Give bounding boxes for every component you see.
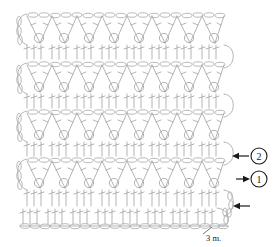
marker-label-1: 1 [257, 174, 262, 185]
double-crochet-group [24, 190, 219, 206]
double-crochet-group [24, 94, 219, 108]
double-crochet-group [24, 45, 219, 59]
long-stitch-group [27, 65, 224, 92]
marker-label-2: 2 [257, 151, 262, 162]
row-marker-1[interactable]: 1 [236, 171, 267, 187]
pattern-row [17, 110, 233, 165]
start-arrow-head [233, 203, 240, 209]
turning-chain-right [224, 142, 233, 165]
crochet-pattern-diagram: 2 1 3 m. [0, 0, 277, 247]
long-stitch-group [27, 113, 224, 140]
double-crochet-group [24, 142, 219, 156]
annotation-label: 3 m. [206, 233, 221, 243]
start-direction-arrow [233, 203, 250, 209]
long-stitch-group [27, 161, 224, 188]
pattern-row [17, 62, 233, 117]
double-crochet-group [20, 209, 215, 224]
turning-chain-right [224, 94, 233, 117]
foundation-row [20, 208, 228, 229]
foundation-chain-annotation: 3 m. [203, 227, 221, 243]
crochet-chart-root: 2 1 3 m. [0, 0, 277, 247]
row-marker-2[interactable]: 2 [232, 148, 267, 164]
pattern-row [17, 13, 233, 68]
marker-arrow-1-head [243, 176, 250, 182]
long-stitch-group [27, 16, 224, 43]
pattern-row [17, 158, 233, 217]
